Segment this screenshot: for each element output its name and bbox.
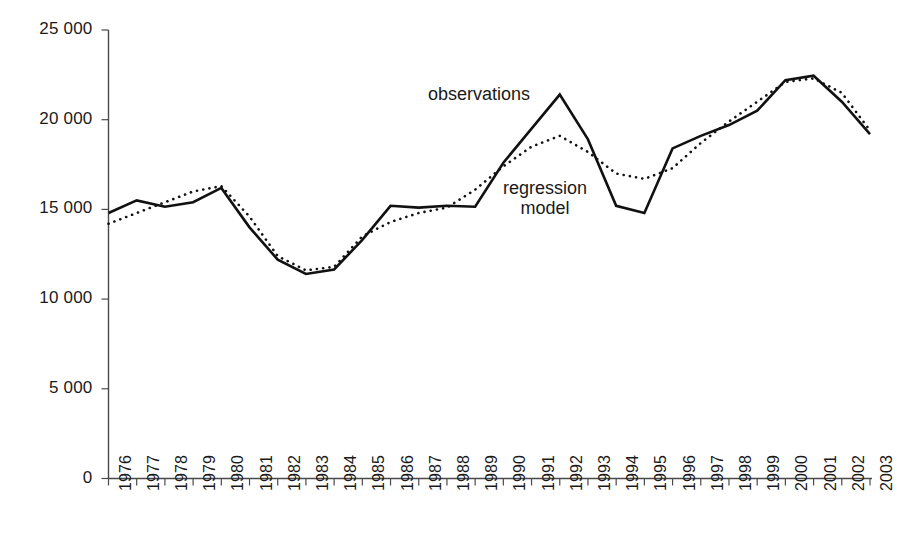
x-axis-tick-label: 1982 bbox=[286, 455, 304, 491]
annotation-regression-line-1: regression bbox=[503, 178, 587, 198]
x-axis-tick-label: 1996 bbox=[681, 455, 699, 491]
y-axis-tick-label: 5 000 bbox=[0, 378, 93, 398]
y-axis-tick-label: 10 000 bbox=[0, 288, 93, 308]
series-line-regression-model bbox=[109, 78, 871, 270]
x-axis-tick-label: 1989 bbox=[483, 455, 501, 491]
x-axis-tick-label: 1980 bbox=[229, 455, 247, 491]
x-axis-tick-label: 2002 bbox=[850, 455, 868, 491]
x-axis-tick-label: 1999 bbox=[765, 455, 783, 491]
x-axis-tick-label: 1997 bbox=[709, 455, 727, 491]
x-axis-tick-label: 1984 bbox=[342, 455, 360, 491]
x-axis-tick-label: 1986 bbox=[399, 455, 417, 491]
x-axis-tick-label: 1998 bbox=[737, 455, 755, 491]
x-axis-tick-label: 1991 bbox=[540, 455, 558, 491]
y-axis-ticks bbox=[102, 30, 109, 479]
x-axis-tick-label: 1987 bbox=[427, 455, 445, 491]
annotation-observations: observations bbox=[428, 84, 530, 104]
x-axis-tick-label: 1978 bbox=[173, 455, 191, 491]
x-axis-tick-label: 1981 bbox=[258, 455, 276, 491]
annotation-regression-line-2: model bbox=[503, 198, 587, 218]
x-axis-tick-label: 1988 bbox=[455, 455, 473, 491]
x-axis-tick-label: 1977 bbox=[145, 455, 163, 491]
x-axis-tick-label: 1979 bbox=[201, 455, 219, 491]
y-axis-tick-label: 0 bbox=[0, 468, 93, 488]
annotation-regression-model: regression model bbox=[503, 178, 587, 218]
x-axis-tick-label: 1993 bbox=[596, 455, 614, 491]
x-axis-tick-label: 1992 bbox=[568, 455, 586, 491]
series-line-observations bbox=[109, 76, 871, 274]
x-axis-tick-label: 2001 bbox=[822, 455, 840, 491]
x-axis-tick-label: 1994 bbox=[624, 455, 642, 491]
x-axis-tick-label: 1990 bbox=[511, 455, 529, 491]
x-axis-tick-label: 1985 bbox=[370, 455, 388, 491]
x-axis-tick-label: 2003 bbox=[878, 455, 896, 491]
y-axis-tick-label: 25 000 bbox=[0, 19, 93, 39]
x-axis-tick-label: 2000 bbox=[793, 455, 811, 491]
x-axis-tick-label: 1995 bbox=[652, 455, 670, 491]
y-axis-tick-label: 15 000 bbox=[0, 198, 93, 218]
y-axis-tick-label: 20 000 bbox=[0, 109, 93, 129]
x-axis-tick-label: 1983 bbox=[314, 455, 332, 491]
chart-container: 05 00010 00015 00020 00025 000 197619771… bbox=[0, 0, 907, 560]
x-axis-tick-label: 1976 bbox=[117, 455, 135, 491]
